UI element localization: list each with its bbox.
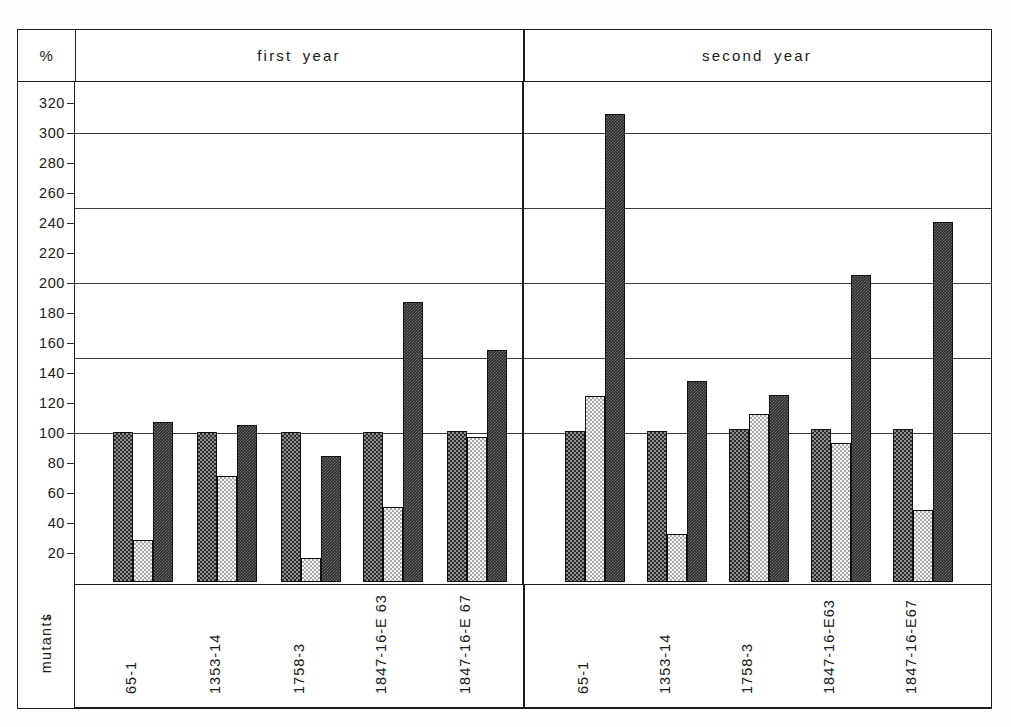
gridline-300 — [75, 133, 991, 134]
x-label-65-1: 65-1 — [123, 661, 139, 694]
y-tick-80: 80 — [48, 455, 65, 471]
bar-first-year-1758-3-series-3 — [321, 456, 341, 582]
y-tick-180: 180 — [39, 305, 65, 321]
y-tick-200: 200 — [39, 275, 65, 291]
y-tick-120: 120 — [39, 395, 65, 411]
y-tick-60: 60 — [48, 485, 65, 501]
y-tick-280: 280 — [39, 155, 65, 171]
bar-second-year-1353-14-series-2 — [667, 534, 687, 582]
bar-first-year-1847-16-E67-series-3 — [487, 350, 507, 583]
bar-second-year-1847-16-E63-series-3 — [851, 275, 871, 583]
bar-first-year-1758-3-series-2 — [301, 558, 321, 582]
category-label-band: → mutants 65-11353-141758-31847-16-E 631… — [18, 585, 991, 708]
bar-first-year-1353-14-series-1 — [197, 432, 217, 582]
panel-title-first-year: first year — [75, 30, 523, 81]
plot-canvas — [75, 82, 991, 585]
x-label-1758-3: 1758-3 — [739, 643, 755, 694]
unit-label: % — [18, 30, 75, 81]
bar-first-year-65-1-series-3 — [153, 422, 173, 583]
x-label-1847-16-E63: 1847-16-E 63 — [373, 594, 389, 694]
y-tick-140: 140 — [39, 365, 65, 381]
bar-second-year-65-1-series-2 — [585, 396, 605, 582]
bar-first-year-1353-14-series-2 — [217, 476, 237, 583]
chart-figure: % first year second year 204060801001201… — [0, 0, 1011, 727]
gridline-250 — [75, 208, 991, 209]
bar-second-year-1353-14-series-3 — [687, 381, 707, 582]
chart-frame: % first year second year 204060801001201… — [17, 29, 992, 709]
panel-separator — [522, 82, 524, 584]
bar-second-year-1847-16-E67-series-3 — [933, 222, 953, 582]
chart-header-band: % first year second year — [18, 30, 991, 82]
x-axis-title: mutants — [38, 613, 54, 674]
bar-second-year-1847-16-E67-series-1 — [893, 429, 913, 582]
category-labels: 65-11353-141758-31847-16-E 631847-16-E 6… — [75, 585, 991, 708]
y-tick-300: 300 — [39, 125, 65, 141]
y-tick-100: 100 — [39, 425, 65, 441]
bar-first-year-1847-16-E67-series-1 — [447, 431, 467, 583]
axis-title-cell: → mutants — [18, 585, 75, 708]
label-divider-mid — [523, 585, 525, 708]
bar-first-year-1847-16-E67-series-2 — [467, 437, 487, 583]
bar-second-year-1847-16-E63-series-2 — [831, 443, 851, 583]
x-label-1847-16-E67: 1847-16-E 67 — [457, 594, 473, 694]
bar-second-year-1353-14-series-1 — [647, 431, 667, 583]
bar-second-year-1758-3-series-3 — [769, 395, 789, 583]
bar-first-year-65-1-series-2 — [133, 540, 153, 582]
bar-first-year-65-1-series-1 — [113, 432, 133, 582]
y-tick-160: 160 — [39, 335, 65, 351]
bar-second-year-65-1-series-1 — [565, 431, 585, 583]
bar-first-year-1353-14-series-3 — [237, 425, 257, 583]
bottom-rule — [75, 707, 991, 708]
x-label-65-1: 65-1 — [575, 661, 591, 694]
bar-first-year-1847-16-E63-series-1 — [363, 432, 383, 582]
header-divider-left — [75, 30, 76, 81]
y-tick-320: 320 — [39, 95, 65, 111]
bar-second-year-65-1-series-3 — [605, 114, 625, 582]
y-axis-column: 2040608010012014016018020022024026028030… — [18, 82, 75, 585]
x-label-1353-14: 1353-14 — [207, 634, 223, 694]
bar-first-year-1847-16-E63-series-3 — [403, 302, 423, 583]
bar-second-year-1847-16-E67-series-2 — [913, 510, 933, 582]
x-label-1847-16-E67: 1847-16-E67 — [903, 599, 919, 694]
plot-area: 2040608010012014016018020022024026028030… — [18, 82, 991, 585]
bar-first-year-1847-16-E63-series-2 — [383, 507, 403, 582]
y-tick-220: 220 — [39, 245, 65, 261]
y-tick-20: 20 — [48, 545, 65, 561]
bar-first-year-1758-3-series-1 — [281, 432, 301, 582]
y-tick-240: 240 — [39, 215, 65, 231]
header-divider-mid — [523, 30, 525, 81]
x-label-1847-16-E63: 1847-16-E63 — [821, 599, 837, 694]
panel-title-second-year: second year — [523, 30, 991, 81]
bar-second-year-1758-3-series-1 — [729, 429, 749, 582]
x-label-1353-14: 1353-14 — [657, 634, 673, 694]
x-label-1758-3: 1758-3 — [291, 643, 307, 694]
y-tick-260: 260 — [39, 185, 65, 201]
bar-second-year-1847-16-E63-series-1 — [811, 429, 831, 582]
y-tick-40: 40 — [48, 515, 65, 531]
bar-second-year-1758-3-series-2 — [749, 414, 769, 582]
